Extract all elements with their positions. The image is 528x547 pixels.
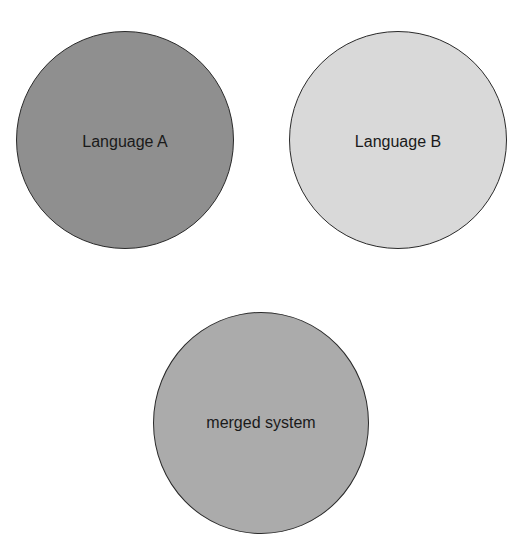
circle-language-a: Language A	[16, 31, 234, 249]
circle-merged-system: merged system	[153, 312, 369, 534]
label-language-b: Language B	[355, 133, 441, 151]
label-language-a: Language A	[82, 133, 167, 151]
circle-language-b: Language B	[289, 31, 507, 249]
label-merged-system: merged system	[206, 414, 315, 432]
